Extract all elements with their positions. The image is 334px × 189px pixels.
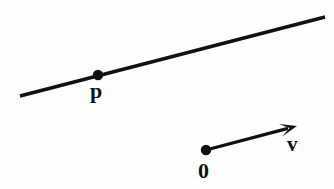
vector-v-label: v [287,134,298,155]
figure-canvas: p 0 v [0,0,334,189]
geometry-diagram [0,0,334,189]
origin-label: 0 [198,160,209,182]
vector-v-shaft [206,128,288,150]
origin-dot [201,145,211,155]
point-p-label: p [90,80,102,102]
infinite-line [20,17,325,96]
